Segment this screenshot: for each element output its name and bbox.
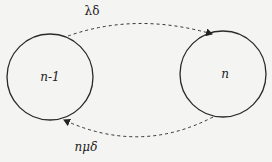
state-transition-diagram: n-1 n λδ nμδ (0, 0, 272, 162)
edge-birth (68, 23, 212, 36)
edge-death-label: nμδ (75, 140, 98, 154)
edge-birth-label: λδ (85, 4, 100, 18)
node-n-minus-1-label: n-1 (40, 70, 59, 84)
node-n-label: n (221, 67, 229, 81)
edge-death (64, 117, 213, 137)
